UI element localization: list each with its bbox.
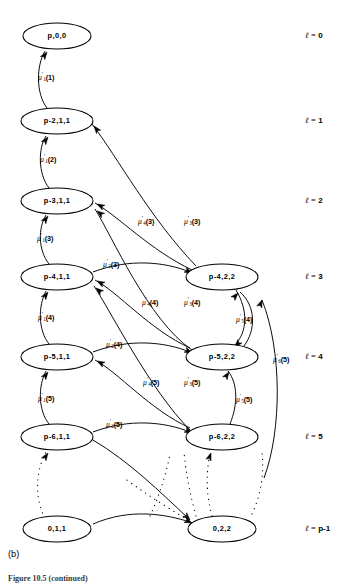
node-n-p6-22[interactable]: p-6,2,2 [186,424,258,450]
edge-label-e-mu4-5: μ′4(5) [143,376,160,387]
edge-label-e-mu2-3: μ′2(3) [103,258,120,269]
node-n-p00[interactable]: p,0,0 [23,23,91,49]
level-label-l0: ℓ=0 [305,31,323,40]
edge-label-e-mu6-5: μ′6(5) [273,353,290,364]
panel-caption: (b) [8,549,19,559]
node-n-p4-11[interactable]: p-4,1,1 [21,264,93,290]
edge-011-to-022 [93,514,190,524]
edge-label-e-mu1-4: μ′1(4) [38,311,55,322]
edge-label-e-mu2-4: μ′2(4) [106,338,123,349]
node-label: p-6,1,1 [44,432,71,441]
node-n-011[interactable]: 0,1,1 [23,516,91,542]
edge-label-e-mu3-5: μ′3(5) [184,376,201,387]
edge-label-e-mu1-2: μ′1(2) [40,153,57,164]
edge-label-e-mu4-3: μ′4(3) [138,215,155,226]
node-label: p-2,1,1 [44,116,71,125]
dots-mid-2 [184,452,196,516]
node-label: p-4,2,2 [209,272,236,281]
edge-p522-to-p311 [95,209,192,350]
edge-p422-to-p211 [92,124,196,266]
edge-label-e-mu1-5: μ′1(5) [38,392,55,403]
node-label: 0,1,1 [48,524,67,533]
edge-label-e-mu1-3: μ′1(3) [37,232,54,243]
level-label-l5: ℓ=5 [305,432,323,441]
edge-label-e-mu5-4: μ′5(4) [236,313,253,324]
node-n-p6-11[interactable]: p-6,1,1 [21,424,93,450]
node-n-p4-22[interactable]: p-4,2,2 [186,264,258,290]
node-n-p3-11[interactable]: p-3,1,1 [21,188,93,214]
node-label: 0,2,2 [213,524,232,533]
edge-p611-to-022 [93,440,188,518]
figure-caption-truncated: Figure 10.5 (continued) [8,574,88,583]
node-label: p,0,0 [47,31,66,40]
node-n-p2-11[interactable]: p-2,1,1 [21,108,93,134]
edge-p622-to-p411 [94,286,190,430]
node-n-p5-22[interactable]: p-5,2,2 [186,344,258,370]
edge-label-e-mu4-4: μ′4(4) [142,296,159,307]
nodes-layer: p,0,0p-2,1,1p-3,1,1p-4,1,1p-5,1,1p-6,1,1… [21,23,258,542]
edge-label-e-mu5-5: μ′5(5) [236,393,253,404]
node-label: p-3,1,1 [44,196,71,205]
node-label: p-4,1,1 [44,272,71,281]
edge-mu6-long [262,300,277,478]
node-n-022[interactable]: 0,2,2 [188,516,256,542]
node-n-p5-11[interactable]: p-5,1,1 [21,344,93,370]
dots-to-p622 [207,452,212,516]
node-label: p-5,1,1 [44,352,71,361]
edge-p622-to-p522-arrowhead-icon [223,370,232,379]
state-transition-diagram: p,0,0p-2,1,1p-3,1,1p-4,1,1p-5,1,1p-6,1,1… [0,0,352,583]
dots-left-col [38,452,46,518]
level-labels-layer: ℓ=0ℓ=1ℓ=2ℓ=3ℓ=4ℓ=5ℓ=p-1 [305,31,331,533]
edge-p422-to-p311 [95,203,192,270]
dots-right-col [252,452,263,514]
edge-p522-to-p311-arrowhead-icon [95,209,104,218]
level-label-l3: ℓ=3 [305,272,323,281]
level-label-lp: ℓ=p-1 [305,524,331,533]
figure-panel-b: p,0,0p-2,1,1p-3,1,1p-4,1,1p-5,1,1p-6,1,1… [0,0,352,583]
level-label-l1: ℓ=1 [305,116,323,125]
level-label-l2: ℓ=2 [305,196,323,205]
dotted-edges-layer [38,451,263,520]
edge-p622-to-p522 [228,371,236,424]
dots-diag [124,478,188,520]
figure-caption-text: Figure 10.5 (continued) [8,574,88,583]
edge-label-e-mu2-5: μ′2(5) [106,418,123,429]
node-label: p-5,2,2 [209,352,236,361]
edge-label-e-mu1-1: μ′1(1) [38,71,55,82]
dots-to-p622-arrowhead-icon [206,452,214,461]
edge-label-e-mu3-4: μ′3(4) [184,296,201,307]
level-label-l4: ℓ=4 [305,352,323,361]
edge-label-e-mu3-3: μ′3(3) [184,215,201,226]
node-label: p-6,2,2 [209,432,236,441]
